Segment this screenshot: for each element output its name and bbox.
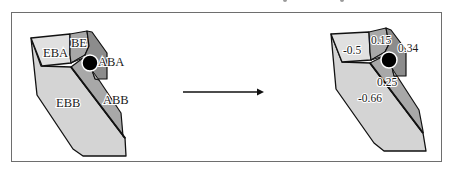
value-abb: 0.25 [377, 76, 397, 88]
label-abb: ABB [103, 93, 129, 107]
left-diagram: EBA BE ABA EBB ABB [31, 31, 129, 156]
transform-arrow [183, 89, 264, 96]
label-ebb: EBB [56, 96, 80, 110]
figure-canvas: EBA BE ABA EBB ABB -0.5 0.15 0.34 0.25 -… [0, 0, 452, 171]
value-aba: 0.34 [398, 42, 418, 54]
location-marker [381, 52, 397, 68]
location-marker [82, 55, 98, 71]
value-eba: -0.5 [343, 44, 361, 56]
arrow-head-icon [257, 89, 264, 96]
value-be: 0.15 [371, 34, 391, 46]
label-eba: EBA [43, 46, 68, 60]
label-aba: ABA [98, 55, 124, 69]
right-diagram: -0.5 0.15 0.34 0.25 -0.66 [331, 28, 426, 151]
value-ebb: -0.66 [358, 92, 382, 104]
label-be: BE [71, 36, 87, 50]
